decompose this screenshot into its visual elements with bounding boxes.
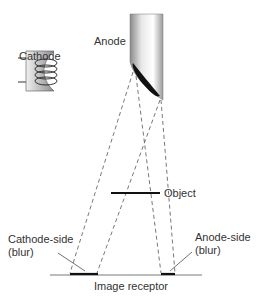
beam-lines xyxy=(70,72,175,273)
anode-side-blur-label: (blur) xyxy=(195,244,221,257)
object-label: Object xyxy=(164,187,196,200)
anode-side-label: Anode-side xyxy=(195,231,251,244)
cathode-label: Cathode xyxy=(19,50,61,63)
anode-icon xyxy=(130,14,163,100)
cathode-side-blur-label: (blur) xyxy=(8,246,34,259)
image-receptor-label: Image receptor xyxy=(94,280,168,293)
cathode-side-label: Cathode-side xyxy=(8,233,73,246)
anode-label: Anode xyxy=(94,35,126,48)
